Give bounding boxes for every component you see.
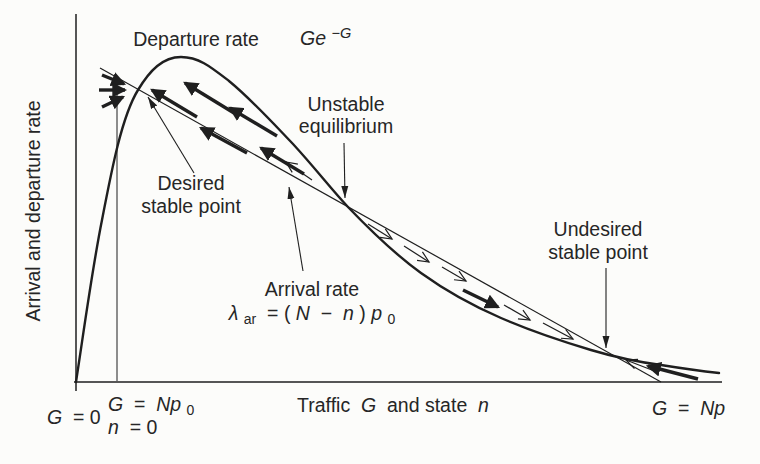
- tick-gnp: G = Np: [652, 397, 725, 419]
- flow-arrow-left-2: [152, 90, 197, 117]
- formula-exponent: −G: [331, 25, 351, 41]
- flow-arrow-right-thick: [463, 290, 498, 307]
- formula-p-subscript: 0: [387, 311, 395, 327]
- flow-arrow-left-1: [185, 83, 234, 113]
- desired-label-line1: Desired: [157, 172, 224, 194]
- x-label-pre: Traffic: [297, 394, 356, 416]
- flow-arrows-to-desired-point: [152, 83, 312, 180]
- tick-gnp0-var: G: [108, 393, 123, 415]
- tick-g0: G = 0: [47, 406, 101, 428]
- unstable-pointer-arrow: [344, 143, 345, 198]
- x-label-n: n: [478, 394, 489, 416]
- flow-arrow-right-3: [442, 267, 466, 281]
- x-label-G: G: [361, 394, 376, 416]
- tick-gnp-np: Np: [700, 397, 725, 419]
- x-axis-label: Traffic G and state n: [297, 394, 489, 416]
- flow-arrows-to-undesired-point: [368, 224, 573, 339]
- tick-g0-value: = 0: [68, 406, 101, 428]
- cluster-arrow-3: [102, 97, 123, 107]
- formula-equals-paren: = (: [262, 302, 291, 324]
- tick-gnp0-subscript: 0: [187, 402, 195, 418]
- stability-diagram: Arrival and departure rate Departure rat…: [0, 0, 760, 464]
- flow-arrow-right-2: [404, 246, 429, 262]
- desired-label-line2: stable point: [141, 195, 241, 217]
- y-axis-label: Arrival and departure rate: [22, 100, 44, 321]
- tick-gnp0-np: Np: [156, 393, 181, 415]
- formula-close-paren: ): [359, 302, 366, 324]
- tick-n0-var: n: [108, 416, 119, 438]
- flow-arrow-left-open: [286, 162, 312, 180]
- undesired-label-line1: Undesired: [554, 218, 643, 240]
- formula-ge: Ge: [300, 27, 326, 49]
- formula-lambda: λ: [228, 302, 239, 324]
- formula-lambda-subscript: ar: [244, 311, 257, 327]
- arrival-rate-label: Arrival rate: [265, 278, 359, 300]
- tick-gnp0: G = Np 0: [108, 393, 195, 418]
- departure-formula: Ge −G: [300, 25, 351, 49]
- formula-p: p: [370, 302, 382, 324]
- tick-g0-var: G: [47, 406, 62, 428]
- flow-arrow-right-4: [504, 305, 530, 320]
- tick-n0: n = 0: [108, 416, 158, 438]
- formula-n: n: [343, 302, 354, 324]
- tick-gnp0-equals: =: [129, 393, 151, 415]
- departure-rate-label: Departure rate: [133, 28, 259, 50]
- undesired-label-line2: stable point: [548, 241, 648, 263]
- tick-gnp-equals: =: [673, 397, 695, 419]
- unstable-label-line2: equilibrium: [299, 115, 393, 137]
- arrival-formula: λ ar = ( N − n ) p 0: [228, 302, 396, 328]
- unstable-label-line1: Unstable: [308, 93, 385, 115]
- arrival-pointer-arrow: [289, 187, 303, 271]
- figure-canvas: Arrival and departure rate Departure rat…: [0, 0, 760, 464]
- flow-arrow-left-3: [230, 108, 277, 136]
- formula-N: N: [296, 302, 311, 324]
- tick-n0-value: = 0: [124, 416, 157, 438]
- flow-arrow-left-4: [201, 128, 247, 153]
- tick-gnp-var: G: [652, 397, 667, 419]
- x-label-mid: and state: [382, 394, 473, 416]
- formula-minus: −: [315, 302, 337, 324]
